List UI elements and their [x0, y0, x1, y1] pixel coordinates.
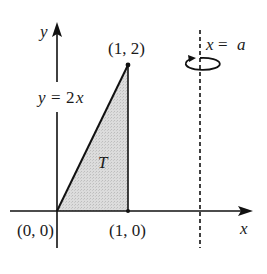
svg-text:x: x [75, 88, 84, 107]
point-label-0-0: (0, 0) [17, 221, 54, 240]
point-label-1-0: (1, 0) [109, 221, 146, 240]
point-1-0-dot [126, 209, 130, 213]
svg-text:=: = [51, 88, 61, 107]
region-label-t: T [98, 153, 109, 172]
point-1-2-dot [126, 63, 131, 68]
x-axis-label: x [239, 219, 248, 238]
point-label-1-2: (1, 2) [108, 39, 145, 58]
axis-of-rotation-label: x = a [205, 35, 246, 54]
rotation-arrow-icon [186, 55, 220, 70]
curve-equation-label: y = 2 x [36, 88, 84, 107]
y-axis-label: y [38, 22, 48, 41]
diagram-canvas: y x (1, 2) (0, 0) (1, 0) y = 2 x x = a T [0, 0, 267, 274]
svg-text:2: 2 [66, 88, 75, 107]
svg-text:x: x [205, 35, 214, 54]
svg-text:a: a [237, 35, 246, 54]
svg-text:=: = [218, 35, 228, 54]
svg-text:y: y [36, 88, 46, 107]
